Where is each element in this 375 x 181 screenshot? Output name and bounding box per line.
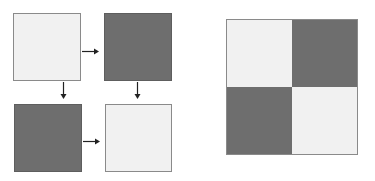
checker-cell-top-left-light: [227, 20, 292, 87]
arrow-down-icon: [59, 82, 68, 100]
checker-cell-top-right-dark: [292, 20, 357, 87]
arrow-down-icon: [133, 82, 142, 100]
square-top-left-light: [13, 13, 81, 81]
checkerboard: [226, 19, 358, 155]
arrow-right-icon: [83, 137, 101, 146]
checker-cell-bottom-right-light: [292, 87, 357, 154]
square-bottom-left-dark: [14, 104, 82, 172]
checker-cell-bottom-left-dark: [227, 87, 292, 154]
square-bottom-right-light: [105, 104, 172, 172]
square-top-right-dark: [104, 13, 172, 81]
arrow-right-icon: [82, 47, 100, 56]
